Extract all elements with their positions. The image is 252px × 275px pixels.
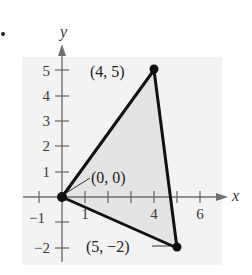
chart-figure: y x 5 4 3 2 1 −1 −2 1 4 6 (4, 5) (0, 0) …: [0, 0, 252, 275]
y-tick-label-3: 3: [43, 113, 51, 129]
y-axis-arrow-icon: [58, 44, 66, 56]
y-tick-label-5: 5: [43, 63, 51, 79]
vertex-origin: [57, 192, 67, 202]
y-tick-label-2: 2: [43, 138, 51, 154]
y-tick-label-neg2: −2: [34, 240, 50, 256]
y-tick-label-4: 4: [43, 88, 51, 104]
chart-svg: y x 5 4 3 2 1 −1 −2 1 4 6 (4, 5) (0, 0) …: [0, 0, 252, 275]
y-tick-label-1: 1: [43, 164, 51, 180]
vertex-p3: [173, 243, 182, 252]
y-axis-label: y: [58, 23, 68, 41]
x-tick-label-1: 1: [81, 206, 89, 222]
point-label-5-neg2: (5, −2): [86, 238, 130, 256]
vertex-p2: [150, 65, 159, 74]
point-label-0-0: (0, 0): [91, 169, 126, 187]
x-tick-label-neg1: −1: [29, 210, 45, 226]
point-label-4-5: (4, 5): [90, 63, 125, 81]
x-axis-label: x: [231, 187, 239, 204]
x-tick-label-6: 6: [196, 206, 204, 222]
x-tick-label-4: 4: [150, 206, 158, 222]
